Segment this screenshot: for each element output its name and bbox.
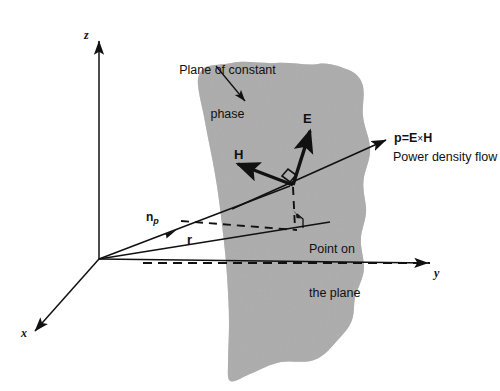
point-on-the-plane-label: Point on the plane bbox=[309, 212, 360, 330]
z-axis-label: z bbox=[84, 28, 89, 42]
plane-of-constant-phase-label: Plane of constant phase bbox=[165, 33, 290, 151]
poynting-h-symbol: H bbox=[423, 131, 432, 145]
power-density-flow-caption: Power density flow bbox=[393, 150, 497, 165]
h-vector-label: H bbox=[234, 147, 243, 162]
np-vector-label: np bbox=[146, 210, 159, 227]
x-axis bbox=[35, 259, 99, 331]
point-label-line-1: Point on bbox=[309, 242, 360, 257]
plane-label-line-1: Plane of constant bbox=[165, 63, 290, 78]
plane-label-line-2: phase bbox=[165, 107, 290, 122]
x-axis-label: x bbox=[21, 326, 27, 340]
poynting-p-symbol: p bbox=[394, 131, 402, 145]
figure-container: z y x Plane of constant phase E H np r P… bbox=[0, 0, 500, 391]
poynting-equation-label: p=E×H bbox=[394, 131, 432, 146]
poynting-equals-sign: = bbox=[402, 131, 409, 145]
point-label-line-2: the plane bbox=[309, 286, 360, 301]
e-vector-label: E bbox=[303, 111, 312, 126]
np-vector-label-subscript: p bbox=[153, 216, 159, 226]
r-vector-label: r bbox=[187, 232, 192, 247]
y-axis-label: y bbox=[434, 266, 439, 280]
